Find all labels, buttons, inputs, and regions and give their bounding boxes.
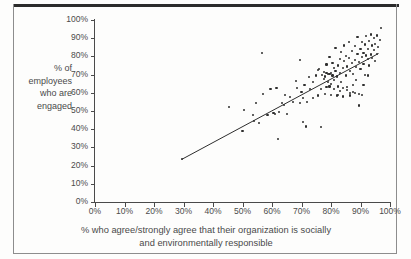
y-axis-tick	[91, 184, 95, 185]
scatter-point	[328, 85, 330, 87]
scatter-point	[367, 74, 369, 76]
y-axis-tick-label: 30%	[48, 142, 88, 151]
plot-area	[95, 20, 390, 202]
scatter-point	[376, 34, 378, 36]
scatter-point	[376, 53, 378, 55]
scatter-point	[354, 92, 356, 94]
y-axis-tick-label: 10%	[48, 179, 88, 188]
scatter-point	[299, 102, 301, 104]
scatter-point	[324, 93, 326, 95]
scatter-point	[295, 80, 297, 82]
scatter-point	[292, 101, 294, 103]
scatter-point	[351, 50, 353, 52]
y-axis-tick-label: 40%	[48, 124, 88, 133]
scatter-point	[300, 91, 302, 93]
y-axis-tick	[91, 20, 95, 21]
scatter-point	[362, 52, 364, 54]
scatter-point	[354, 59, 356, 61]
scatter-point	[352, 84, 354, 86]
scatter-point	[317, 94, 319, 96]
y-axis-tick-label: 90%	[48, 33, 88, 42]
scatter-point	[362, 63, 364, 65]
scatter-point	[348, 41, 350, 43]
scatter-point	[361, 41, 363, 43]
x-axis-title-line-0: % who agree/strongly agree that their or…	[30, 224, 382, 237]
scatter-point	[255, 102, 257, 104]
y-axis-tick	[91, 93, 95, 94]
scatter-point	[331, 74, 333, 76]
scatter-point	[269, 88, 271, 90]
scatter-point	[339, 90, 341, 92]
y-axis-tick	[91, 38, 95, 39]
y-axis-tick	[91, 166, 95, 167]
scatter-point	[359, 48, 361, 50]
x-axis-title-line-1: and environmentally responsible	[30, 237, 382, 250]
y-axis-tick-label: 0%	[48, 197, 88, 206]
scatter-point	[370, 33, 372, 35]
y-axis-tick	[91, 111, 95, 112]
scatter-point	[241, 130, 243, 132]
scatter-point	[370, 53, 372, 55]
scatter-point	[358, 104, 360, 106]
scatter-point	[359, 68, 361, 70]
y-axis-tick	[91, 129, 95, 130]
y-axis-tick-label: 50%	[48, 106, 88, 115]
scatter-point	[349, 94, 351, 96]
scatter-point	[339, 72, 341, 74]
scatter-point	[258, 122, 260, 124]
y-axis-tick	[91, 75, 95, 76]
y-axis-tick-label: 20%	[48, 161, 88, 170]
y-axis-tick	[91, 147, 95, 148]
scatter-point	[321, 74, 323, 76]
scatter-point	[345, 74, 347, 76]
scatter-point	[342, 95, 344, 97]
scatter-point	[331, 62, 333, 64]
scatter-point	[361, 94, 363, 96]
scatter-point	[286, 113, 288, 115]
scatter-point	[274, 113, 276, 115]
scatter-point	[283, 104, 285, 106]
scatter-point	[351, 62, 353, 64]
scatter-point	[364, 43, 366, 45]
scatter-point	[334, 70, 336, 72]
y-axis-tick-label: 60%	[48, 88, 88, 97]
scatter-point	[373, 49, 375, 51]
scatter-point	[302, 121, 304, 123]
scatter-point	[356, 53, 358, 55]
figure-root: % ofemployeeswho areengaged % who agree/…	[0, 0, 411, 259]
scatter-point	[266, 114, 268, 116]
scatter-point	[303, 84, 305, 86]
scatter-point	[323, 71, 325, 73]
scatter-point	[352, 73, 354, 75]
scatter-point	[379, 39, 381, 41]
scatter-point	[252, 114, 254, 116]
scatter-point	[334, 47, 336, 49]
scatter-point	[261, 52, 263, 54]
y-axis-tick	[91, 56, 95, 57]
scatter-point	[325, 63, 327, 65]
scatter-point	[324, 75, 326, 77]
scatter-point	[336, 75, 338, 77]
x-axis-tick-label: 100%	[370, 206, 410, 216]
scatter-point	[277, 138, 279, 140]
y-axis-tick-label: 80%	[48, 51, 88, 60]
scatter-point	[362, 84, 364, 86]
scatter-point	[364, 74, 366, 76]
scatter-point	[323, 78, 325, 80]
y-axis-tick-label: 100%	[48, 15, 88, 24]
x-axis-title: % who agree/strongly agree that their or…	[30, 224, 382, 250]
scatter-point	[330, 94, 332, 96]
trendline	[95, 20, 390, 202]
scatter-point	[305, 125, 307, 127]
scatter-point	[346, 65, 348, 67]
y-axis-tick-label: 70%	[48, 70, 88, 79]
scatter-point	[358, 93, 360, 95]
